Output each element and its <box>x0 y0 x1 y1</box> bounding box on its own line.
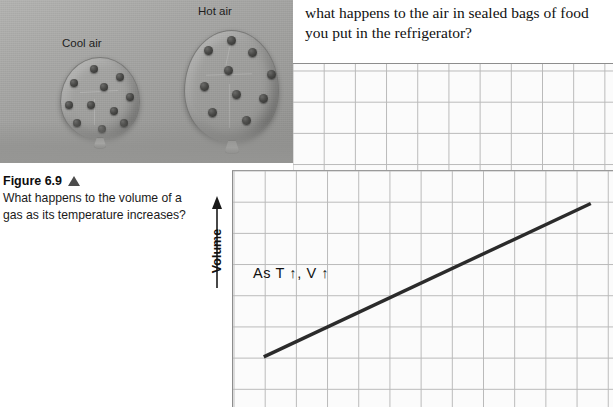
bead <box>259 94 268 103</box>
bead <box>200 82 209 91</box>
bead <box>90 65 98 73</box>
bead <box>227 36 236 45</box>
figure-caption: Figure 6.9 What happens to the volume of… <box>3 174 199 225</box>
figure-page: As T ↑, V ↑ Volume <box>0 0 613 407</box>
bead <box>267 70 276 79</box>
bead <box>87 101 95 109</box>
bead <box>224 66 233 75</box>
y-axis-group: Volume <box>206 196 228 306</box>
bead <box>232 90 241 99</box>
bead <box>100 83 108 91</box>
y-axis-label: Volume <box>210 219 224 283</box>
figure-caption-head: Figure 6.9 <box>3 174 199 188</box>
figure-caption-text: What happens to the volume of a gas as i… <box>3 190 199 225</box>
bead <box>248 48 257 57</box>
graph-grid-upper <box>293 63 613 171</box>
figure-number: Figure 6.9 <box>3 174 62 188</box>
balloon-photo: Cool air Hot air <box>0 0 293 163</box>
bead <box>116 73 124 81</box>
graph-grid-lower <box>232 171 613 407</box>
bead <box>65 101 73 109</box>
bead <box>208 108 217 117</box>
up-triangle-icon <box>68 176 80 186</box>
balloon-hot-label: Hot air <box>198 5 232 17</box>
bead <box>204 46 213 55</box>
question-text: what happens to the air in sealed bags o… <box>305 3 610 44</box>
bead <box>126 93 134 101</box>
photo-shading <box>0 121 293 163</box>
plot-annotation: As T ↑, V ↑ <box>253 265 329 281</box>
balloon-cool-label: Cool air <box>62 37 102 49</box>
bead <box>110 107 118 115</box>
bead <box>70 79 78 87</box>
